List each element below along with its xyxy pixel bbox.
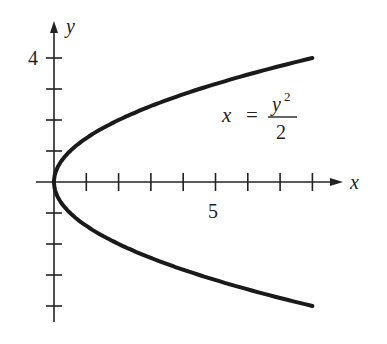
svg-text:y: y [270,93,281,116]
x-axis-arrow-icon [330,178,343,186]
svg-text:2: 2 [284,89,291,104]
svg-text:x: x [221,103,232,127]
parabola-chart: y x 4 5 x = y 2 2 [0,0,387,344]
svg-text:=: = [246,103,258,127]
y-tick-label-4: 4 [28,47,38,69]
svg-text:2: 2 [276,121,286,143]
x-tick-label-5: 5 [208,200,218,222]
x-axis-label: x [349,171,359,193]
y-axis-label: y [64,15,75,38]
y-axis-arrow-icon [50,21,58,33]
equation-label: x = y 2 2 [221,89,297,143]
